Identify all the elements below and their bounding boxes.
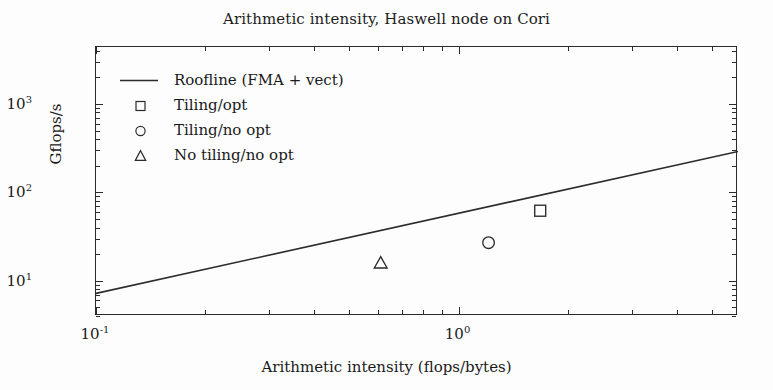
- x-tick-mark: [423, 47, 424, 51]
- y-tick-mark: [96, 295, 100, 296]
- y-tick-mark: [732, 166, 736, 167]
- x-tick-mark: [632, 310, 633, 314]
- roofline-chart-figure: Arithmetic intensity, Haswell node on Co…: [0, 0, 773, 390]
- y-tick-mark: [96, 192, 103, 193]
- y-tick-mark: [96, 104, 103, 105]
- y-tick-mark: [732, 196, 736, 197]
- y-tick-mark: [732, 124, 736, 125]
- y-tick-label: 101: [7, 270, 32, 289]
- y-axis-label: Gflops/s: [47, 74, 65, 194]
- legend-label-roofline: Roofline (FMA + vect): [174, 68, 344, 93]
- legend-key-circle: [118, 118, 164, 143]
- y-tick-label: 103: [7, 93, 32, 112]
- y-tick-mark: [96, 124, 100, 125]
- x-tick-mark: [402, 47, 403, 51]
- x-tick-mark: [632, 47, 633, 51]
- y-tick-mark: [96, 254, 100, 255]
- y-tick-mark: [96, 51, 100, 52]
- x-tick-mark: [712, 310, 713, 314]
- y-tick-mark: [96, 62, 100, 63]
- x-tick-mark: [314, 310, 315, 314]
- legend-label-tiling-opt: Tiling/opt: [174, 93, 247, 118]
- y-tick-mark: [96, 219, 100, 220]
- x-tick-mark: [269, 310, 270, 314]
- legend-item: Tiling/opt: [118, 93, 348, 118]
- chart-title: Arithmetic intensity, Haswell node on Co…: [0, 10, 773, 28]
- x-tick-mark: [269, 47, 270, 51]
- y-tick-mark: [732, 289, 736, 290]
- data-marker-square: [535, 205, 546, 216]
- x-tick-mark: [378, 47, 379, 51]
- legend-label-tiling-no-opt: Tiling/no opt: [174, 118, 271, 143]
- x-tick-mark: [568, 310, 569, 314]
- legend-key-line: [118, 68, 164, 93]
- y-tick-mark: [732, 295, 736, 296]
- x-tick-mark: [349, 310, 350, 314]
- y-tick-mark: [732, 307, 736, 308]
- legend-item: No tiling/no opt: [118, 143, 348, 168]
- x-tick-mark: [423, 310, 424, 314]
- y-tick-mark: [732, 228, 736, 229]
- legend-key-square: [118, 93, 164, 118]
- y-tick-mark: [96, 212, 100, 213]
- y-tick-mark: [96, 139, 100, 140]
- y-tick-mark: [732, 300, 736, 301]
- y-tick-mark: [96, 166, 100, 167]
- y-tick-mark: [96, 285, 100, 286]
- data-marker-triangle: [374, 257, 387, 268]
- x-axis-label: Arithmetic intensity (flops/bytes): [0, 358, 773, 376]
- y-tick-mark: [732, 139, 736, 140]
- legend-key-triangle: [118, 143, 164, 168]
- data-series-layer: [96, 151, 738, 293]
- x-tick-mark: [677, 310, 678, 314]
- y-tick-mark: [96, 131, 100, 132]
- data-marker-circle: [483, 237, 495, 249]
- y-tick-mark: [96, 239, 100, 240]
- y-tick-mark: [729, 192, 736, 193]
- y-tick-mark: [96, 300, 100, 301]
- y-tick-mark: [732, 239, 736, 240]
- legend-item: Tiling/no opt: [118, 118, 348, 143]
- y-tick-mark: [732, 219, 736, 220]
- x-tick-label: 10-1: [81, 324, 110, 343]
- y-tick-mark: [732, 316, 736, 317]
- legend-item: Roofline (FMA + vect): [118, 68, 348, 93]
- y-tick-mark: [732, 62, 736, 63]
- y-tick-mark: [96, 77, 100, 78]
- x-tick-mark: [442, 310, 443, 314]
- y-tick-mark: [96, 112, 100, 113]
- y-tick-mark: [732, 206, 736, 207]
- x-tick-mark: [677, 47, 678, 51]
- y-tick-mark: [96, 316, 100, 317]
- y-tick-label: 102: [7, 182, 32, 201]
- x-tick-mark: [205, 310, 206, 314]
- y-tick-mark: [729, 281, 736, 282]
- y-tick-mark: [732, 118, 736, 119]
- x-tick-mark: [442, 47, 443, 51]
- x-tick-mark: [568, 47, 569, 51]
- x-tick-mark: [205, 47, 206, 51]
- y-tick-mark: [96, 289, 100, 290]
- y-tick-mark: [732, 150, 736, 151]
- y-tick-mark: [96, 108, 100, 109]
- y-tick-mark: [732, 201, 736, 202]
- y-tick-mark: [729, 104, 736, 105]
- y-tick-mark: [732, 212, 736, 213]
- x-tick-mark: [349, 47, 350, 51]
- y-tick-mark: [732, 254, 736, 255]
- y-tick-mark: [96, 206, 100, 207]
- x-tick-mark: [459, 47, 460, 54]
- x-tick-mark: [314, 47, 315, 51]
- y-tick-mark: [96, 307, 100, 308]
- x-tick-mark: [459, 307, 460, 314]
- y-tick-mark: [732, 112, 736, 113]
- x-tick-mark: [378, 310, 379, 314]
- y-tick-mark: [96, 201, 100, 202]
- roofline-line: [96, 151, 738, 293]
- y-tick-mark: [96, 281, 103, 282]
- y-tick-mark: [96, 196, 100, 197]
- x-tick-mark: [402, 310, 403, 314]
- y-tick-mark: [732, 77, 736, 78]
- y-tick-mark: [732, 285, 736, 286]
- x-tick-label: 100: [445, 324, 470, 343]
